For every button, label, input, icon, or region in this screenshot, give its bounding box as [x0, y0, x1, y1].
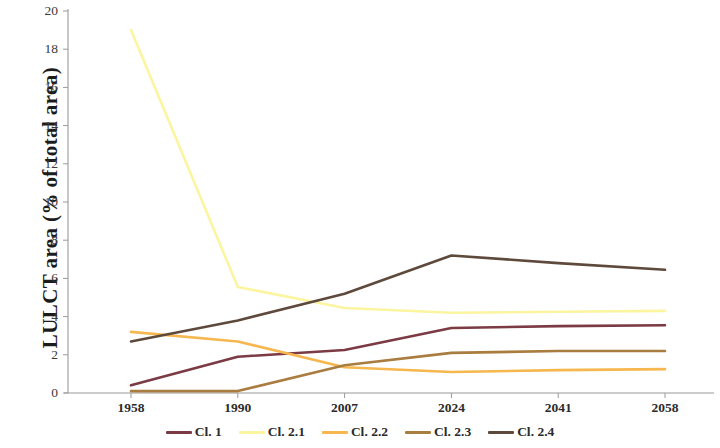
- plot-area: [0, 0, 720, 448]
- legend-swatch-cl21: [239, 431, 265, 434]
- legend-item-cl24[interactable]: Cl. 2.4: [488, 424, 554, 440]
- legend-swatch-cl23: [405, 431, 431, 434]
- legend-label: Cl. 1: [195, 424, 222, 440]
- x-tick-label: 1990: [203, 400, 273, 416]
- legend-swatch-cl22: [322, 431, 348, 434]
- legend-label: Cl. 2.2: [351, 424, 388, 440]
- line-chart: LULCT area (% of total area) 20181614121…: [0, 0, 720, 448]
- x-tick-label: 2041: [523, 400, 593, 416]
- x-tick-label: 2024: [416, 400, 486, 416]
- x-tick-label: 2058: [630, 400, 700, 416]
- legend-item-cl22[interactable]: Cl. 2.2: [322, 424, 388, 440]
- legend-label: Cl. 2.3: [434, 424, 471, 440]
- legend-item-cl23[interactable]: Cl. 2.3: [405, 424, 471, 440]
- chart-legend: Cl. 1Cl. 2.1Cl. 2.2Cl. 2.3Cl. 2.4: [0, 424, 720, 440]
- x-tick-label: 1958: [96, 400, 166, 416]
- legend-swatch-cl24: [488, 431, 514, 434]
- legend-label: Cl. 2.4: [517, 424, 554, 440]
- legend-item-cl1[interactable]: Cl. 1: [166, 424, 222, 440]
- legend-label: Cl. 2.1: [268, 424, 305, 440]
- legend-swatch-cl1: [166, 431, 192, 434]
- x-tick-label: 2007: [310, 400, 380, 416]
- legend-item-cl21[interactable]: Cl. 2.1: [239, 424, 305, 440]
